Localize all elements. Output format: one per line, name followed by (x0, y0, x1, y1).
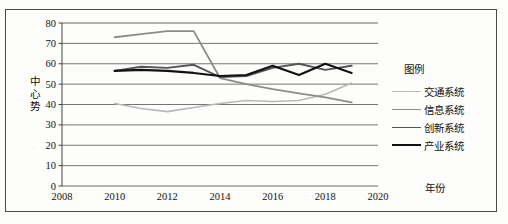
legend-color-swatch (392, 109, 421, 110)
svg-text:30: 30 (46, 119, 57, 130)
svg-text:2018: 2018 (315, 191, 336, 202)
legend-item-label: 交通系统 (424, 84, 464, 99)
legend-item: 信息系统 (392, 100, 500, 118)
svg-text:2016: 2016 (262, 191, 283, 202)
x-axis-title: 年份 (425, 180, 445, 195)
svg-text:80: 80 (46, 18, 57, 29)
legend-color-swatch (392, 127, 421, 128)
legend-item: 交通系统 (392, 82, 500, 100)
legend-color-swatch (392, 144, 421, 146)
svg-text:2020: 2020 (368, 191, 389, 202)
svg-text:40: 40 (46, 99, 57, 110)
svg-text:2010: 2010 (104, 191, 125, 202)
svg-text:2008: 2008 (52, 191, 73, 202)
svg-text:10: 10 (46, 160, 57, 171)
svg-text:70: 70 (46, 38, 57, 49)
legend-title: 图例 (404, 61, 500, 76)
legend-color-swatch (392, 91, 421, 92)
legend-item-label: 产业系统 (424, 138, 464, 153)
svg-text:2014: 2014 (210, 191, 232, 202)
svg-text:60: 60 (46, 58, 57, 69)
legend-item-label: 信息系统 (424, 102, 464, 117)
svg-text:2012: 2012 (157, 191, 178, 202)
y-axis-title: 中心势 (28, 76, 42, 114)
legend-item: 产业系统 (392, 136, 500, 154)
legend-item: 创新系统 (392, 118, 500, 136)
svg-text:50: 50 (46, 79, 57, 90)
svg-text:20: 20 (46, 140, 57, 151)
chart-legend: 图例 交通系统 信息系统 创新系统 产业系统 (392, 61, 500, 154)
legend-item-label: 创新系统 (424, 120, 464, 135)
